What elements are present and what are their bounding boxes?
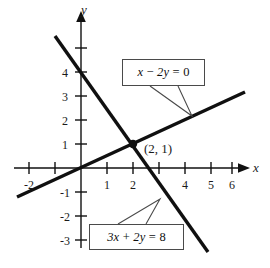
graph-figure: x y -2 1 2 4 5 6 4 3 2 1 -1 -2 -3 (2, 1)… <box>0 0 270 268</box>
intersection-point-marker <box>129 140 137 148</box>
x-tick-label-2: 2 <box>130 178 136 192</box>
y-axis-label: y <box>79 2 87 17</box>
x-tick-label-5: 5 <box>208 178 214 192</box>
y-tick-label--2: -2 <box>60 210 70 224</box>
x-tick-label--2: -2 <box>24 178 34 192</box>
callout-2-term-3x: 3x <box>107 230 119 244</box>
callout-1-operator: − <box>143 65 157 79</box>
x-axis-arrowhead <box>238 163 250 173</box>
leader-line-callout-2 <box>118 199 160 224</box>
y-tick-label-2: 2 <box>62 114 68 128</box>
y-tick-label-1: 1 <box>62 138 68 152</box>
y-tick-label--1: -1 <box>60 186 70 200</box>
intersection-point-label: (2, 1) <box>144 141 172 156</box>
callout-2-rhs: 8 <box>159 230 165 244</box>
callout-1-text: x − 2y = 0 <box>137 65 189 80</box>
callout-2-term-2y: 2y <box>133 230 145 244</box>
callout-2-text: 3x + 2y = 8 <box>107 230 166 245</box>
y-tick-label-4: 4 <box>62 66 68 80</box>
y-tick-label--3: -3 <box>60 234 70 248</box>
leader-line-callout-1 <box>150 86 192 116</box>
callout-1-term-2y: 2y <box>157 65 169 79</box>
x-tick-label-1: 1 <box>104 178 110 192</box>
callout-box-line-x-minus-2y: x − 2y = 0 <box>122 59 205 86</box>
axes-group <box>14 11 250 248</box>
callout-1-equals: = <box>169 65 183 79</box>
callout-2-operator: + <box>119 230 133 244</box>
x-axis-label: x <box>252 160 259 175</box>
callout-box-line-3x-plus-2y: 3x + 2y = 8 <box>89 224 184 250</box>
x-tick-label-4: 4 <box>182 178 188 192</box>
callout-1-rhs: 0 <box>183 65 189 79</box>
callout-2-equals: = <box>145 230 159 244</box>
y-tick-label-3: 3 <box>62 90 68 104</box>
x-tick-label-6: 6 <box>229 178 235 192</box>
